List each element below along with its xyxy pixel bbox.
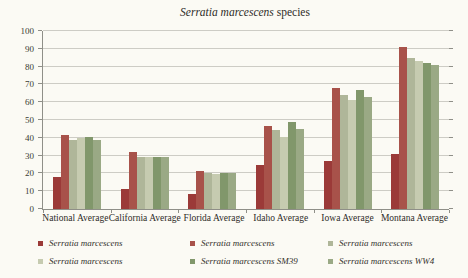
x-category-label: Florida Average <box>181 213 248 223</box>
x-category-label: National Average <box>42 213 109 223</box>
y-axis-tick-right <box>449 190 453 191</box>
y-axis-tick-right <box>449 101 453 102</box>
legend-item: Serratia marcescens <box>328 238 462 248</box>
bar-group <box>178 31 246 209</box>
y-axis-tick <box>38 101 42 102</box>
bar <box>129 152 137 209</box>
x-category-label: California Average <box>109 213 181 223</box>
y-axis-tick-right <box>449 208 453 209</box>
y-axis-tick-right <box>449 83 453 84</box>
bar-groups <box>43 31 449 209</box>
bar <box>264 126 272 209</box>
chart-title-species-name: Serratia marcescens <box>180 6 274 18</box>
bar <box>161 157 169 209</box>
bar <box>220 173 228 209</box>
chart-title: Serratia marcescens species <box>42 6 448 18</box>
y-axis-tick-right <box>449 155 453 156</box>
y-axis-tick <box>38 208 42 209</box>
legend-swatch-icon <box>190 241 195 246</box>
y-axis-tick-label: 50 <box>25 116 34 125</box>
bar <box>407 58 415 209</box>
bar <box>121 189 129 209</box>
y-axis-tick-right <box>449 30 453 31</box>
y-axis-tick-right <box>449 66 453 67</box>
legend-swatch-icon <box>328 259 333 264</box>
bar <box>196 171 204 209</box>
bar <box>93 140 101 209</box>
legend-swatch-icon <box>38 259 43 264</box>
legend-swatch-icon <box>38 241 43 246</box>
legend-label: Serratia marcescens <box>201 238 274 248</box>
y-axis-tick-label: 30 <box>25 151 34 160</box>
x-axis-labels: National AverageCalifornia AverageFlorid… <box>42 213 448 223</box>
bar <box>340 95 348 209</box>
bar <box>272 130 280 209</box>
y-axis-tick-label: 40 <box>25 133 34 142</box>
bar <box>61 135 69 209</box>
bar <box>153 157 161 209</box>
bar-group <box>314 31 382 209</box>
bar-group <box>246 31 314 209</box>
x-category-label: Idaho Average <box>247 213 314 223</box>
plot-area <box>42 31 449 210</box>
y-axis-tick <box>38 30 42 31</box>
y-axis-tick-right <box>449 137 453 138</box>
y-axis-tick-label: 0 <box>30 205 35 214</box>
y-axis-tick-label: 80 <box>25 62 34 71</box>
bar <box>356 90 364 209</box>
legend-swatch-icon <box>328 241 333 246</box>
y-axis-tick-right <box>449 172 453 173</box>
legend-label: Serratia marcescens WW4 <box>339 256 434 266</box>
legend-item: Serratia marcescens <box>38 256 190 266</box>
bar <box>288 122 296 209</box>
y-axis-tick-label: 20 <box>25 169 34 178</box>
bar <box>296 129 304 209</box>
bar <box>137 157 145 209</box>
legend-item: Serratia marcescens <box>190 238 328 248</box>
bar <box>415 61 423 209</box>
bar <box>69 140 77 209</box>
bar <box>212 174 220 209</box>
legend-label: Serratia marcescens <box>49 238 122 248</box>
bar <box>348 100 356 209</box>
bar <box>188 194 196 209</box>
y-axis-tick <box>38 119 42 120</box>
bar <box>391 154 399 209</box>
bar <box>53 177 61 209</box>
bar <box>256 165 264 210</box>
y-axis-tick <box>38 137 42 138</box>
bar <box>431 65 439 209</box>
bar-group <box>111 31 179 209</box>
y-axis-tick <box>38 48 42 49</box>
x-category-label: Iowa Average <box>314 213 381 223</box>
y-axis-tick <box>38 155 42 156</box>
y-axis-tick-right <box>449 48 453 49</box>
legend-item: Serratia marcescens WW4 <box>328 256 462 266</box>
bar <box>423 63 431 209</box>
bar <box>332 88 340 209</box>
bar <box>145 157 153 209</box>
y-axis-tick-label: 70 <box>25 80 34 89</box>
legend-label: Serratia marcescens <box>49 256 122 266</box>
y-axis-tick-label: 100 <box>21 27 35 36</box>
bar <box>204 173 212 209</box>
bar <box>280 137 288 209</box>
bar <box>85 137 93 209</box>
bar <box>228 173 236 209</box>
y-axis-tick <box>38 172 42 173</box>
legend-item: Serratia marcescens <box>38 238 190 248</box>
bar-group <box>381 31 449 209</box>
legend-label: Serratia marcescens SM39 <box>201 256 298 266</box>
y-axis-tick <box>38 190 42 191</box>
y-axis-tick <box>38 66 42 67</box>
legend-swatch-icon <box>190 259 195 264</box>
x-category-label: Montana Average <box>381 213 448 223</box>
x-axis-tick <box>449 210 450 213</box>
bar <box>364 97 372 209</box>
legend-label: Serratia marcescens <box>339 238 412 248</box>
y-axis-tick-label: 90 <box>25 44 34 53</box>
bar <box>77 138 85 209</box>
chart-title-suffix: species <box>274 6 310 18</box>
bar-group <box>43 31 111 209</box>
legend-item: Serratia marcescens SM39 <box>190 256 328 266</box>
